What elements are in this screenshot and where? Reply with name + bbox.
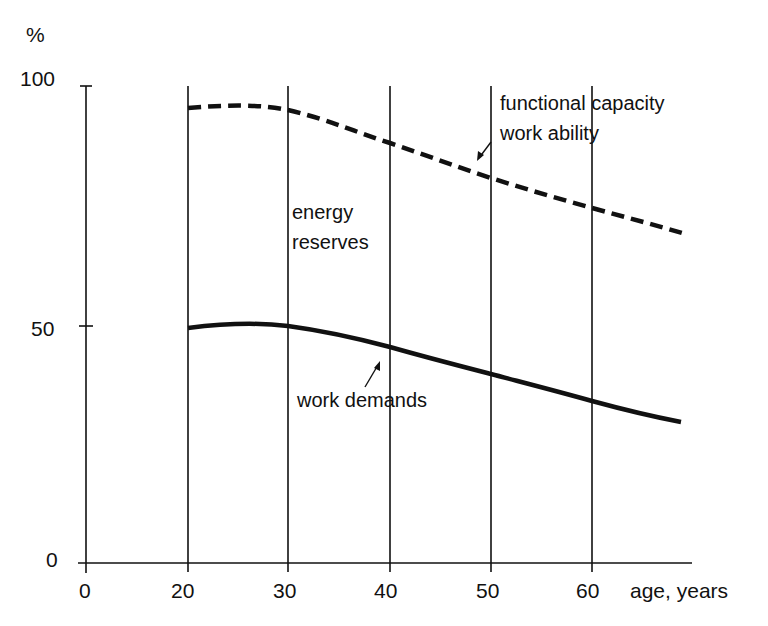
annotation-energy: energy	[292, 201, 353, 223]
annotation-reserves: reserves	[292, 231, 369, 253]
y-tick-label-100: 100	[20, 67, 55, 90]
annotation-work-demands: work demands	[296, 389, 427, 411]
x-tick-label-60: 60	[576, 579, 599, 602]
functional-capacity-curve	[188, 106, 682, 233]
x-tick-label-50: 50	[476, 579, 499, 602]
y-axis-unit: %	[26, 23, 45, 46]
vertical-gridlines	[188, 86, 592, 572]
x-tick-label-30: 30	[273, 579, 296, 602]
x-tick-label-20: 20	[171, 579, 194, 602]
x-axis-title: age, years	[630, 579, 728, 602]
x-tick-label-40: 40	[374, 579, 397, 602]
x-tick-label-0: 0	[79, 579, 91, 602]
y-tick-label-50: 50	[31, 317, 54, 340]
ageing-work-capacity-chart: % 100 50 0 0 20 30 40 50 60 age, years f…	[0, 0, 768, 626]
work-demands-curve	[188, 324, 681, 422]
annotation-functional-capacity: functional capacity	[500, 92, 665, 114]
y-tick-label-0: 0	[46, 548, 58, 571]
annotation-work-ability: work ability	[499, 122, 599, 144]
